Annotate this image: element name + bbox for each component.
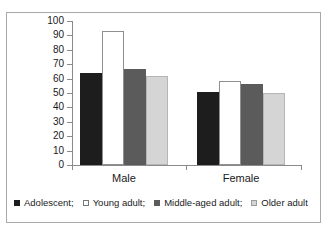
bar	[241, 84, 263, 165]
legend-item: Older adult	[251, 198, 307, 208]
legend-item: Young adult;	[83, 198, 145, 208]
y-axis-tick-label: 20	[36, 131, 64, 141]
y-axis-tick-label: 30	[36, 117, 64, 127]
y-axis-tick	[67, 93, 72, 94]
y-axis-tick-label: 40	[36, 102, 64, 112]
bar	[219, 81, 241, 165]
y-axis-tick	[67, 64, 72, 65]
legend-label: Older adult	[261, 198, 307, 208]
y-axis-tick	[67, 35, 72, 36]
bar	[197, 92, 219, 165]
legend-swatch-icon	[251, 200, 257, 206]
y-axis-line	[72, 21, 73, 166]
y-axis-tick	[67, 136, 72, 137]
y-axis-tick-label: 70	[36, 59, 64, 69]
legend-label: Young adult;	[93, 198, 145, 208]
y-axis-tick-label: 0	[36, 160, 64, 170]
y-axis-tick	[67, 122, 72, 123]
x-axis-category-label: Female	[201, 172, 281, 184]
y-axis-tick-label: 100	[36, 16, 64, 26]
y-axis-tick-label: 60	[36, 74, 64, 84]
x-axis-tick	[301, 165, 302, 170]
legend-swatch-icon	[83, 200, 89, 206]
legend-swatch-icon	[14, 200, 20, 206]
x-axis-tick	[186, 165, 187, 170]
bar	[80, 73, 102, 165]
bar	[146, 76, 168, 165]
y-axis-tick	[67, 79, 72, 80]
y-axis-tick	[67, 50, 72, 51]
bar	[263, 93, 285, 165]
legend-label: Middle-aged adult;	[164, 198, 242, 208]
legend-label: Adolescent;	[24, 198, 74, 208]
y-axis-tick	[67, 151, 72, 152]
y-axis-tick-label: 80	[36, 45, 64, 55]
x-axis-category-label: Male	[84, 172, 164, 184]
y-axis-tick	[67, 107, 72, 108]
legend-swatch-icon	[154, 200, 160, 206]
legend-item: Adolescent;	[14, 198, 74, 208]
chart-figure: Percent 1009080706050403020100 MaleFemal…	[0, 0, 330, 232]
y-axis-tick	[67, 21, 72, 22]
bar	[102, 31, 124, 165]
y-axis-tick-label: 50	[36, 88, 64, 98]
chart-legend: Adolescent;Young adult;Middle-aged adult…	[14, 196, 306, 210]
bar	[124, 69, 146, 165]
y-axis-tick-label: 90	[36, 30, 64, 40]
y-axis-tick-label: 10	[36, 146, 64, 156]
x-axis-tick	[72, 165, 73, 170]
legend-item: Middle-aged adult;	[154, 198, 242, 208]
